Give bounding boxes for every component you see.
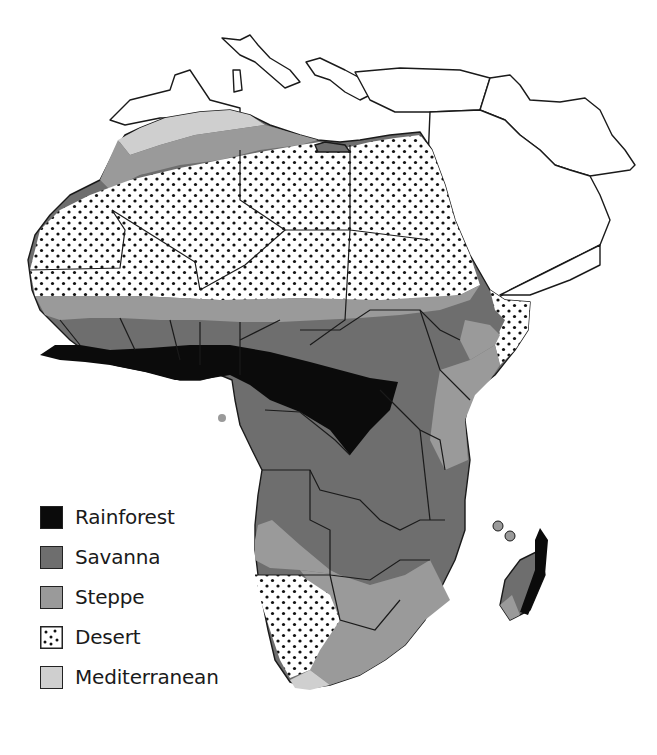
legend-item-mediterranean: Mediterranean — [40, 657, 219, 697]
steppe-swatch-icon — [40, 586, 63, 609]
savanna-swatch-icon — [40, 546, 63, 569]
legend-label: Rainforest — [75, 505, 175, 529]
legend-item-savanna: Savanna — [40, 537, 219, 577]
legend-label: Savanna — [75, 545, 160, 569]
bioko-island — [218, 414, 226, 422]
comoros-island — [505, 531, 515, 541]
legend-label: Mediterranean — [75, 665, 219, 689]
legend-label: Steppe — [75, 585, 144, 609]
rainforest-swatch-icon — [40, 506, 63, 529]
comoros-island — [493, 521, 503, 531]
legend-item-desert: Desert — [40, 617, 219, 657]
mediterranean-swatch-icon — [40, 666, 63, 689]
legend-item-steppe: Steppe — [40, 577, 219, 617]
legend-label: Desert — [75, 625, 140, 649]
desert-swatch-icon — [40, 626, 63, 649]
legend-item-rainforest: Rainforest — [40, 497, 219, 537]
desert-zone-sahara — [30, 135, 480, 300]
legend: Rainforest Savanna Steppe Desert Mediter… — [40, 497, 219, 697]
